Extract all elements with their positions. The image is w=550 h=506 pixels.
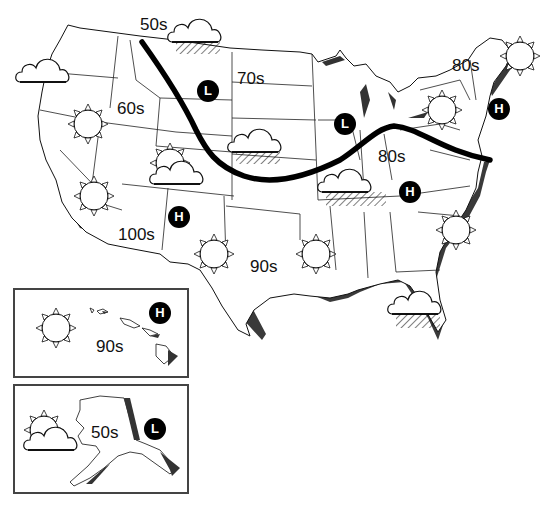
temp-label-midwest: 80s [378,148,405,165]
temp-label-northwest: 60s [117,100,144,117]
temp-label-nw: 50s [140,16,167,33]
temp-label-alaska: 50s [91,424,118,441]
high-pressure-marker: H [488,98,510,120]
sun-icon [194,234,234,274]
sun-icon [36,308,76,348]
low-pressure-marker: L [197,80,219,102]
temp-label-southwest: 100s [118,226,155,243]
weather-map [0,0,550,506]
temp-label-north-plains: 70s [237,70,264,87]
low-pressure-marker: L [144,418,166,440]
sun-icon [74,176,114,216]
sun-icon [68,104,108,144]
high-pressure-marker: H [168,206,190,228]
temp-label-hawaii: 90s [96,338,123,355]
temp-label-northeast: 80s [452,57,479,74]
sun-icon [500,36,540,76]
high-pressure-marker: H [149,302,171,324]
high-pressure-marker: H [399,181,421,203]
sun-icon [436,210,476,250]
sun-icon [296,234,336,274]
temp-label-south: 90s [250,258,277,275]
sun-icon [422,90,462,130]
low-pressure-marker: L [334,113,356,135]
